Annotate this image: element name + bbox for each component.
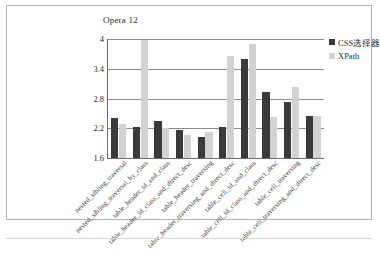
bar-xpath <box>313 116 320 158</box>
y-axis-tick-label: 3.4 <box>93 64 104 74</box>
y-axis-tick-label: 1.6 <box>93 153 104 163</box>
bar-group <box>194 39 216 158</box>
bar-css <box>198 137 205 158</box>
bar-group <box>130 39 152 158</box>
bar-xpath <box>249 44 256 158</box>
bar-xpath <box>227 56 234 158</box>
bar-group <box>238 39 260 158</box>
bar-css <box>154 121 161 158</box>
bar-xpath <box>205 132 212 158</box>
bar-xpath <box>184 135 191 158</box>
bar-group <box>259 39 281 158</box>
y-axis-tick-label: 2.2 <box>93 123 104 133</box>
bars-layer <box>108 39 324 158</box>
bar-css <box>219 127 226 158</box>
bar-group <box>173 39 195 158</box>
bar-group <box>302 39 324 158</box>
bar-css <box>241 59 248 158</box>
chart-legend: CSS选择器 XPath <box>329 36 380 64</box>
chart-title: Opera 12 <box>103 15 138 25</box>
plot-area <box>108 39 324 158</box>
chart-frame: Opera 12 1.62.22.83.44 nested_sibling_tr… <box>6 5 372 220</box>
caption-divider <box>6 238 372 239</box>
bar-group <box>151 39 173 158</box>
bar-xpath <box>292 87 299 158</box>
bar-xpath <box>162 128 169 158</box>
bar-css <box>133 127 140 158</box>
bar-css <box>306 116 313 158</box>
y-axis-tick-label: 2.8 <box>93 94 104 104</box>
bar-group <box>108 39 130 158</box>
bar-group <box>281 39 303 158</box>
bar-group <box>216 39 238 158</box>
bar-css <box>111 118 118 158</box>
bar-xpath <box>119 124 126 158</box>
x-axis-category-labels: nested_sibling_traversalnested_sibling_t… <box>108 159 324 225</box>
legend-item-xpath: XPath <box>329 51 380 61</box>
bar-xpath <box>141 40 148 158</box>
bar-css <box>176 130 183 158</box>
y-axis-tick-labels: 1.62.22.83.44 <box>85 39 107 158</box>
y-axis-tick-label: 4 <box>100 34 104 44</box>
legend-swatch-css-icon <box>329 39 335 45</box>
legend-item-css: CSS选择器 <box>329 36 380 48</box>
legend-label-xpath: XPath <box>338 51 359 61</box>
bar-css <box>262 92 269 158</box>
bar-xpath <box>270 117 277 158</box>
legend-swatch-xpath-icon <box>329 53 335 59</box>
bar-css <box>284 102 291 158</box>
legend-label-css: CSS选择器 <box>338 36 380 48</box>
x-axis-category-label: table_cell_traversing_and_direct_desc <box>238 159 322 243</box>
